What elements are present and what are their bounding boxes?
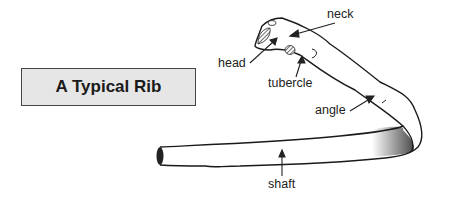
shaft-arrowhead — [279, 150, 285, 157]
neck-arrowhead — [290, 30, 299, 37]
label-shaft: shaft — [268, 177, 295, 191]
label-tubercle: tubercle — [268, 76, 312, 90]
label-angle: angle — [315, 103, 346, 117]
tubercle-facet — [285, 46, 295, 55]
angle-notch — [382, 100, 386, 103]
head-arrow — [250, 42, 273, 63]
rib-illustration — [0, 0, 468, 197]
shaft-end — [157, 147, 164, 165]
head-top-facet — [268, 21, 276, 26]
angle-arrow — [350, 100, 368, 111]
label-neck: neck — [327, 7, 353, 21]
label-head: head — [218, 56, 246, 70]
tubercle-hook — [312, 49, 317, 58]
